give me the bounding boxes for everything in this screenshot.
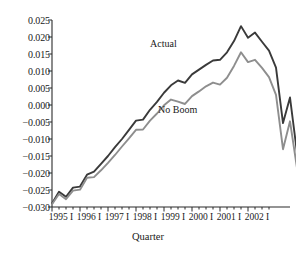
x-tick-label: 1995 I: [49, 212, 74, 222]
x-tick-label: 1999 I: [161, 212, 186, 222]
series-label-no-boom: No Boom: [158, 104, 197, 115]
x-tick-label: 1998 I: [133, 212, 158, 222]
x-tick-label: 2002 I: [245, 212, 270, 222]
series-label-actual: Actual: [150, 38, 177, 49]
chart-figure: 0.0250.0200.0150.0100.0050.000−0.005−0.0…: [0, 0, 296, 259]
x-axis-tick-labels: 1995 I1996 I1997 I1998 I1999 I2000 I2001…: [0, 0, 296, 259]
x-tick-label: 1996 I: [77, 212, 102, 222]
x-axis-title: Quarter: [0, 231, 296, 242]
x-tick-label: 2001 I: [217, 212, 242, 222]
x-tick-label: 2000 I: [189, 212, 214, 222]
x-tick-label: 1997 I: [105, 212, 130, 222]
